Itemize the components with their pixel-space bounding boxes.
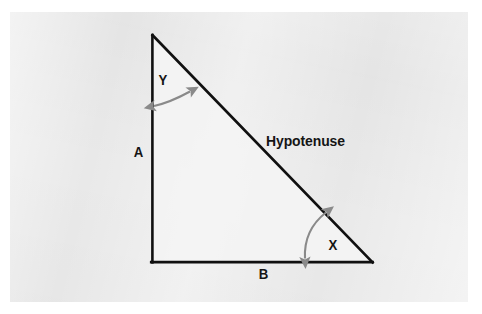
angle-label-x: X: [329, 237, 338, 252]
hypotenuse-label: Hypotenuse: [266, 133, 345, 149]
angle-label-y: Y: [159, 72, 168, 87]
side-label-a: A: [134, 144, 144, 159]
side-label-b: B: [259, 266, 269, 281]
triangle-diagram-svg: [0, 0, 482, 314]
figure-root: Y A B X Hypotenuse: [0, 0, 482, 314]
